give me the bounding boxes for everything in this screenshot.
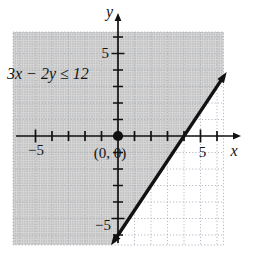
y-axis-arrowhead-icon [115,13,122,21]
x-tick-label-neg5: −5 [28,142,44,158]
origin-point-dot [113,131,123,141]
graph-canvas: 3x − 2y ≤ 12 y x 5 −5 −5 5 (0, 0) [0,0,254,257]
y-tick-label-neg5: −5 [95,217,111,233]
x-axis-arrowhead-icon [233,133,241,140]
x-tick-label-pos5: 5 [199,144,207,160]
origin-point-label: (0, 0) [94,145,127,162]
x-axis-label: x [229,142,237,159]
inequality-graph-figure: 3x − 2y ≤ 12 y x 5 −5 −5 5 (0, 0) [0,0,254,257]
inequality-label: 3x − 2y ≤ 12 [6,65,89,83]
y-axis-label: y [104,3,114,21]
y-tick-label-pos5: 5 [102,45,110,61]
